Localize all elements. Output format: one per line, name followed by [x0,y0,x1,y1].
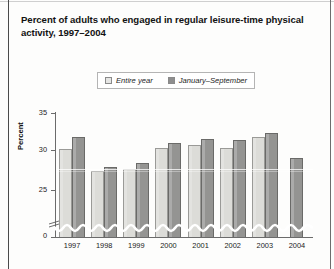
y-tick-label-25: 25 [23,186,47,194]
y-tick-0 [51,237,56,238]
bar-entire-year-2000 [155,148,168,237]
x-axis-label-1999: 1999 [120,241,152,250]
bar-january-september-1997 [72,137,85,237]
bar-entire-year-2001 [188,145,201,237]
x-axis-label-2001: 2001 [185,241,217,250]
bar-entire-year-1998 [91,171,104,237]
x-axis-label-2004: 2004 [281,241,313,250]
bar-january-september-2001 [201,139,214,237]
x-axis-label-2002: 2002 [217,241,249,250]
bar-entire-year-1999 [123,169,136,237]
bar-january-september-1999 [136,163,149,237]
bar-january-september-2004 [290,158,303,237]
x-axis-labels: 19971998199920002001200220032004 [56,241,313,253]
bar-january-september-2003 [265,133,278,237]
bar-january-september-1998 [104,167,117,237]
x-axis-label-1997: 1997 [56,241,88,250]
y-tick-label-35: 35 [23,109,47,117]
y-tick-label-0: 0 [23,232,47,240]
x-axis-label-1998: 1998 [88,241,120,250]
bar-series-container [56,112,313,237]
x-axis-label-2003: 2003 [249,241,281,250]
bar-entire-year-2002 [220,148,233,237]
x-axis-label-2000: 2000 [152,241,184,250]
bar-january-september-2000 [168,143,181,237]
chart-page: Percent of adults who engaged in regular… [0,0,334,269]
plot-area: Percent 35 30 25 0 199719981999200020012… [0,0,334,269]
bar-entire-year-2003 [252,137,265,237]
y-tick-label-30: 30 [23,146,47,154]
x-axis-line [55,237,313,238]
bar-entire-year-1997 [59,149,72,237]
bar-january-september-2002 [233,140,246,237]
